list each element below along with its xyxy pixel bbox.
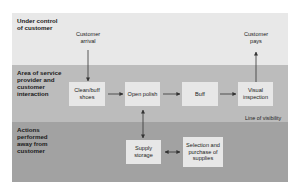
flow-arrows xyxy=(0,0,299,189)
